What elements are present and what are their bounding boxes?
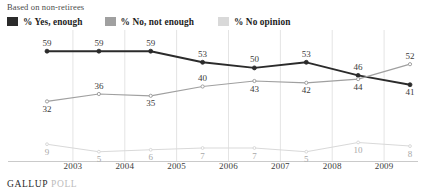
svg-text:40: 40	[198, 73, 208, 83]
chart-footer: GALLUPPOLL	[7, 179, 77, 189]
legend-label-yes-enough: % Yes, enough	[23, 17, 83, 27]
svg-text:50: 50	[250, 54, 260, 64]
svg-text:36: 36	[94, 81, 104, 91]
plot-svg: 5959595350534641323635404342445295677510…	[0, 30, 424, 170]
x-tick-2006: 2006	[219, 161, 238, 171]
legend-label-no-not-enough: % No, not enough	[121, 17, 194, 27]
svg-text:41: 41	[406, 87, 415, 97]
gallup-brand-label: GALLUP	[7, 179, 48, 189]
svg-text:9: 9	[45, 147, 50, 157]
svg-text:59: 59	[43, 38, 53, 48]
svg-text:10: 10	[354, 145, 364, 155]
svg-text:7: 7	[200, 151, 205, 161]
x-tick-2004: 2004	[115, 161, 134, 171]
x-tick-2003: 2003	[63, 161, 82, 171]
x-tick-2005: 2005	[167, 161, 186, 171]
svg-text:8: 8	[408, 149, 413, 159]
x-tick-2009: 2009	[375, 161, 394, 171]
svg-text:7: 7	[252, 151, 257, 161]
svg-text:52: 52	[406, 51, 415, 61]
legend-swatch-no-opinion	[218, 17, 229, 26]
x-tick-2008: 2008	[323, 161, 342, 171]
svg-text:59: 59	[94, 38, 104, 48]
legend-item-yes-enough: % Yes, enough	[7, 17, 83, 27]
svg-text:53: 53	[198, 49, 208, 59]
x-axis-labels: 2003200420052006200720082009	[0, 161, 424, 177]
svg-text:32: 32	[43, 104, 52, 114]
plot-area: 5959595350534641323635404342445295677510…	[0, 30, 424, 170]
chart-legend: % Yes, enough % No, not enough % No opin…	[7, 15, 290, 28]
svg-text:44: 44	[354, 82, 364, 92]
chart-subtitle: Based on non-retirees	[7, 2, 84, 12]
poll-label: POLL	[51, 179, 77, 189]
svg-text:43: 43	[250, 84, 260, 94]
legend-swatch-yes-enough	[7, 17, 18, 26]
svg-text:42: 42	[302, 85, 311, 95]
svg-text:53: 53	[302, 49, 312, 59]
legend-item-no-opinion: % No opinion	[218, 17, 290, 27]
legend-label-no-opinion: % No opinion	[234, 17, 290, 27]
legend-swatch-no-not-enough	[105, 17, 116, 26]
legend-item-no-not-enough: % No, not enough	[105, 17, 194, 27]
svg-text:35: 35	[146, 98, 156, 108]
x-tick-2007: 2007	[271, 161, 290, 171]
gallup-poll-line-chart: Based on non-retirees % Yes, enough % No…	[0, 0, 424, 195]
svg-text:59: 59	[146, 38, 156, 48]
svg-text:46: 46	[354, 62, 364, 72]
